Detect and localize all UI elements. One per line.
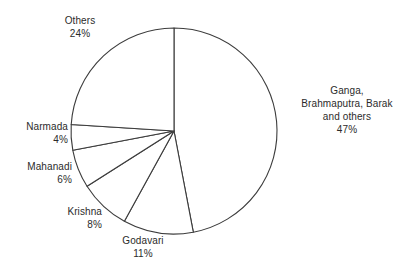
- pie-label-mahanadi-name: Mahanadi: [2, 160, 72, 173]
- pie-label-krishna: Krishna 8%: [30, 205, 102, 231]
- pie-label-ganga-line3: and others: [288, 110, 406, 123]
- pie-label-godavari-value: 11%: [104, 247, 182, 260]
- pie-label-mahanadi-value: 6%: [2, 173, 72, 186]
- pie-label-mahanadi: Mahanadi 6%: [2, 160, 72, 186]
- pie-slice-group: [71, 28, 277, 234]
- pie-label-others-value: 24%: [44, 27, 116, 40]
- pie-label-godavari: Godavari 11%: [104, 234, 182, 260]
- pie-label-krishna-value: 8%: [30, 218, 102, 231]
- pie-label-ganga-line1: Ganga,: [288, 84, 406, 97]
- pie-label-narmada: Narmada 4%: [2, 120, 68, 146]
- pie-label-ganga: Ganga, Brahmaputra, Barak and others 47%: [288, 84, 406, 136]
- pie-label-ganga-line2: Brahmaputra, Barak: [288, 97, 406, 110]
- pie-slice-ganga: [174, 28, 277, 232]
- pie-label-krishna-name: Krishna: [30, 205, 102, 218]
- pie-label-godavari-name: Godavari: [104, 234, 182, 247]
- pie-label-others-name: Others: [44, 14, 116, 27]
- pie-label-narmada-name: Narmada: [2, 120, 68, 133]
- pie-label-others: Others 24%: [44, 14, 116, 40]
- pie-label-narmada-value: 4%: [2, 133, 68, 146]
- pie-label-ganga-value: 47%: [288, 123, 406, 136]
- pie-chart-figure: Others 24% Ganga, Brahmaputra, Barak and…: [0, 0, 408, 277]
- pie-slice-others: [71, 28, 174, 131]
